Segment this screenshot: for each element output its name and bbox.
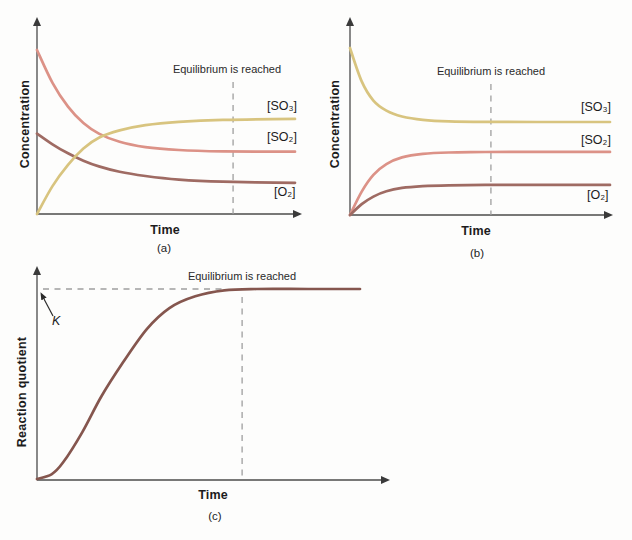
panel-c-equilibrium-annotation: Equilibrium is reached	[188, 271, 296, 282]
panel-b-so2-label: [SO₂]	[581, 134, 611, 147]
panel-b-caption: (b)	[470, 248, 484, 260]
panel-b-plot	[350, 26, 610, 215]
equilibrium-figure-page: { "figure": { "colors": { "so2": "#dc928…	[0, 0, 632, 540]
curve-so3	[37, 119, 295, 214]
panel-a-so3-label: [SO₃]	[267, 100, 297, 113]
panel-a-x-axis-label: Time	[150, 224, 180, 237]
panel-a-y-axis-label: Concentration	[19, 80, 32, 169]
curve-so2	[350, 152, 610, 215]
panel-a-o2-label: [O₂]	[274, 186, 296, 199]
figure-canvas	[0, 0, 632, 540]
panel-c-y-axis-label: Reaction quotient	[16, 337, 29, 448]
panel-b-equilibrium-annotation: Equilibrium is reached	[437, 66, 545, 77]
panel-b-y-axis-label: Concentration	[329, 80, 342, 169]
panel-b-so3-label: [SO₃]	[581, 101, 611, 114]
curve-o2	[37, 134, 295, 183]
panel-c-x-axis-label: Time	[198, 489, 228, 502]
panel-a-so2-label: [SO₂]	[267, 131, 297, 144]
panel-b-x-axis-label: Time	[461, 225, 491, 238]
curve-q	[37, 289, 360, 479]
panel-a-plot	[37, 26, 295, 214]
panel-c-k-label: K	[52, 315, 60, 328]
panel-c-plot	[37, 275, 381, 480]
panel-a-caption: (a)	[157, 243, 171, 255]
panel-a-equilibrium-annotation: Equilibrium is reached	[173, 64, 281, 75]
panel-b-o2-label: [O₂]	[587, 189, 609, 202]
curve-so3	[350, 48, 610, 122]
curve-o2	[350, 185, 610, 215]
panel-c-caption: (c)	[208, 511, 221, 523]
